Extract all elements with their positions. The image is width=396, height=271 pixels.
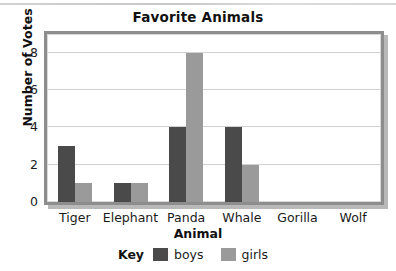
y-tick-label: 2 bbox=[12, 157, 38, 172]
x-tick-label-gorilla: Gorilla bbox=[270, 210, 326, 225]
gridline bbox=[47, 164, 381, 165]
bar-elephant-boys bbox=[114, 183, 131, 202]
x-axis-label: Animal bbox=[0, 226, 396, 241]
legend-label-boys: boys bbox=[174, 247, 204, 262]
x-tick-label-wolf: Wolf bbox=[325, 210, 381, 225]
x-tick-label-panda: Panda bbox=[158, 210, 214, 225]
bar-panda-girls bbox=[186, 53, 203, 202]
gridline bbox=[47, 89, 381, 90]
gridline bbox=[47, 126, 381, 127]
bar-whale-girls bbox=[242, 165, 259, 202]
x-tick-label-elephant: Elephant bbox=[103, 210, 159, 225]
scan-artifact-line bbox=[0, 3, 396, 5]
bar-elephant-girls bbox=[131, 183, 148, 202]
x-tick-label-whale: Whale bbox=[214, 210, 270, 225]
y-tick-label: 0 bbox=[12, 194, 38, 209]
legend-entry-boys: boys bbox=[153, 247, 204, 262]
legend-key-label: Key bbox=[118, 247, 144, 262]
bar-tiger-boys bbox=[58, 146, 75, 202]
chart-legend: Key boys girls bbox=[0, 247, 396, 262]
x-tick-label-tiger: Tiger bbox=[47, 210, 103, 225]
legend-label-girls: girls bbox=[242, 247, 269, 262]
legend-swatch-girls-icon bbox=[221, 248, 236, 261]
y-tick-label: 4 bbox=[12, 119, 38, 134]
chart-title: Favorite Animals bbox=[0, 9, 396, 25]
legend-entry-girls: girls bbox=[221, 247, 269, 262]
bar-whale-boys bbox=[225, 127, 242, 202]
bar-panda-boys bbox=[169, 127, 186, 202]
y-tick-label: 8 bbox=[12, 45, 38, 60]
gridline bbox=[47, 52, 381, 53]
bar-tiger-girls bbox=[75, 183, 92, 202]
legend-swatch-boys-icon bbox=[153, 248, 168, 261]
y-tick-label: 6 bbox=[12, 82, 38, 97]
plot-area bbox=[47, 34, 381, 202]
